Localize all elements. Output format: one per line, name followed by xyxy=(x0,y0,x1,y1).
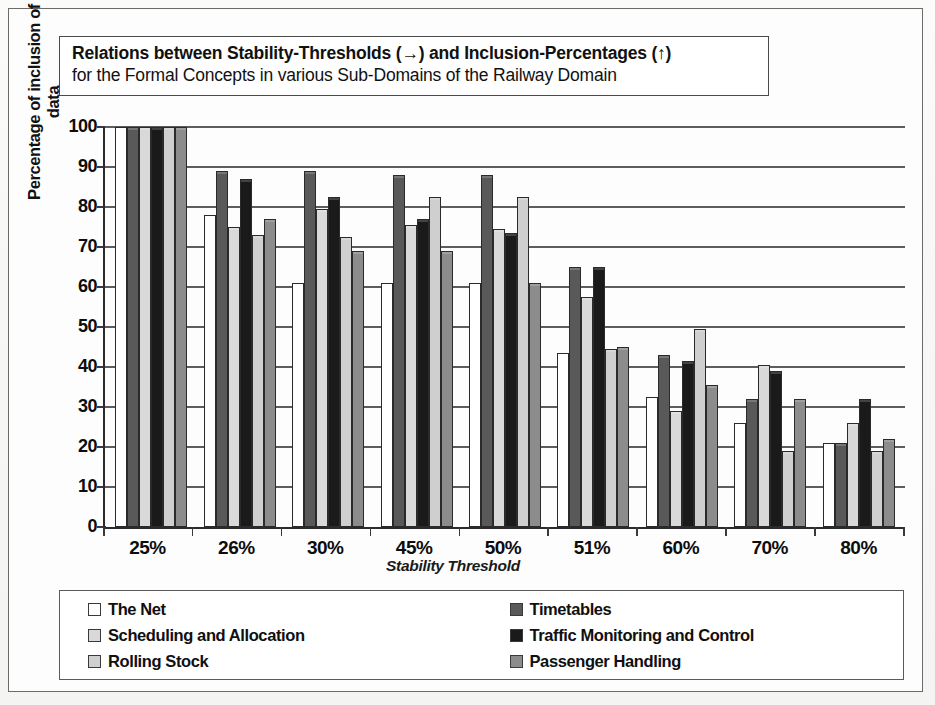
legend-item[interactable]: Scheduling and Allocation xyxy=(88,622,482,648)
bar[interactable] xyxy=(151,127,163,527)
bar[interactable] xyxy=(240,179,252,527)
bar[interactable] xyxy=(859,399,871,527)
chart-title-line-1: Relations between Stability-Thresholds (… xyxy=(72,43,758,64)
legend-item-label: Traffic Monitoring and Control xyxy=(530,626,754,645)
bar[interactable] xyxy=(658,355,670,527)
legend-swatch-icon xyxy=(88,655,101,668)
legend-item[interactable]: The Net xyxy=(88,596,482,622)
legend-item-label: Rolling Stock xyxy=(108,652,208,671)
legend-item-label: Scheduling and Allocation xyxy=(108,626,305,645)
bar[interactable] xyxy=(883,439,895,527)
x-tick-mark xyxy=(103,527,105,536)
x-axis-ticks xyxy=(103,527,903,537)
bar[interactable] xyxy=(469,283,481,527)
bar[interactable] xyxy=(758,365,770,527)
y-tick-label: 70 xyxy=(78,236,97,257)
bar[interactable] xyxy=(340,237,352,527)
bar[interactable] xyxy=(204,215,216,527)
y-tick-label: 0 xyxy=(87,516,97,537)
plot-area: Percentage of inclusion of data 01020304… xyxy=(31,127,911,582)
x-tick-label: 60% xyxy=(636,537,725,559)
bar[interactable] xyxy=(617,347,629,527)
chart-title-middle: ) and Inclusion-Percentages ( xyxy=(419,43,657,63)
legend-column-left: The NetScheduling and AllocationRolling … xyxy=(60,591,482,679)
bar[interactable] xyxy=(127,127,139,527)
bar-group xyxy=(638,127,726,527)
bar[interactable] xyxy=(794,399,806,527)
bar[interactable] xyxy=(292,283,304,527)
bar[interactable] xyxy=(316,209,328,527)
chart-title-box: Relations between Stability-Thresholds (… xyxy=(59,36,769,96)
bar-group xyxy=(284,127,372,527)
x-tick-label: 45% xyxy=(370,537,459,559)
bar[interactable] xyxy=(569,267,581,527)
chart-title-suffix: ) xyxy=(666,43,672,63)
chart-subtitle: for the Formal Concepts in various Sub-D… xyxy=(72,65,758,86)
bar[interactable] xyxy=(393,175,405,527)
legend-item[interactable]: Passenger Handling xyxy=(510,648,904,674)
bar[interactable] xyxy=(417,219,429,527)
x-tick-label: 51% xyxy=(547,537,636,559)
bar[interactable] xyxy=(694,329,706,527)
bar[interactable] xyxy=(770,371,782,527)
x-tick-label: 25% xyxy=(103,537,192,559)
bar[interactable] xyxy=(517,197,529,527)
legend-swatch-icon xyxy=(510,629,523,642)
bar-group xyxy=(195,127,283,527)
bar[interactable] xyxy=(835,443,847,527)
bar[interactable] xyxy=(581,297,593,527)
bar[interactable] xyxy=(782,451,794,527)
y-tick-label: 80 xyxy=(78,196,97,217)
bar[interactable] xyxy=(228,227,240,527)
bar[interactable] xyxy=(605,349,617,527)
bar[interactable] xyxy=(706,385,718,527)
bar[interactable] xyxy=(505,233,517,527)
bar[interactable] xyxy=(847,423,859,527)
x-tick-mark xyxy=(281,527,283,536)
chart-legend: The NetScheduling and AllocationRolling … xyxy=(59,590,904,680)
y-tick-label: 30 xyxy=(78,396,97,417)
bar[interactable] xyxy=(139,127,151,527)
bar[interactable] xyxy=(646,397,658,527)
y-tick-label: 40 xyxy=(78,356,97,377)
bar[interactable] xyxy=(304,171,316,527)
bar[interactable] xyxy=(175,127,187,527)
bar[interactable] xyxy=(163,127,175,527)
bar[interactable] xyxy=(734,423,746,527)
x-tick-label: 26% xyxy=(192,537,281,559)
bar[interactable] xyxy=(493,229,505,527)
x-axis-title: Stability Threshold xyxy=(386,557,520,575)
bar[interactable] xyxy=(328,197,340,527)
bar-groups xyxy=(105,127,905,527)
bar[interactable] xyxy=(405,225,417,527)
bar[interactable] xyxy=(381,283,393,527)
x-tick-label: 50% xyxy=(459,537,548,559)
bar[interactable] xyxy=(352,251,364,527)
bar[interactable] xyxy=(670,411,682,527)
legend-item[interactable]: Rolling Stock xyxy=(88,648,482,674)
legend-item[interactable]: Timetables xyxy=(510,596,904,622)
bar[interactable] xyxy=(429,197,441,527)
bar[interactable] xyxy=(746,399,758,527)
bar[interactable] xyxy=(481,175,493,527)
y-tick-label: 10 xyxy=(78,476,97,497)
x-tick-label: 70% xyxy=(725,537,814,559)
bar-group xyxy=(726,127,814,527)
bar[interactable] xyxy=(557,353,569,527)
bar[interactable] xyxy=(264,219,276,527)
x-tick-mark xyxy=(636,527,638,536)
bar[interactable] xyxy=(823,443,835,527)
bar[interactable] xyxy=(529,283,541,527)
bar[interactable] xyxy=(593,267,605,527)
bar[interactable] xyxy=(682,361,694,527)
legend-swatch-icon xyxy=(88,629,101,642)
bar[interactable] xyxy=(216,171,228,527)
bar[interactable] xyxy=(252,235,264,527)
bar-group xyxy=(549,127,637,527)
legend-item[interactable]: Traffic Monitoring and Control xyxy=(510,622,904,648)
bar[interactable] xyxy=(115,127,127,527)
bar-group xyxy=(815,127,903,527)
bar[interactable] xyxy=(441,251,453,527)
bar[interactable] xyxy=(871,451,883,527)
x-tick-label: 30% xyxy=(281,537,370,559)
